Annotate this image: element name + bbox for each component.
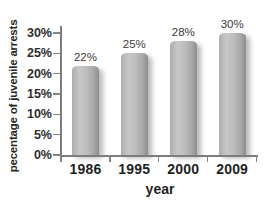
y-tick-mark xyxy=(53,73,60,74)
bar xyxy=(219,33,246,155)
y-tick-mark xyxy=(53,32,60,33)
y-tick-label: 25% xyxy=(20,45,52,61)
bar xyxy=(72,66,99,155)
x-tick-mark xyxy=(207,157,208,162)
x-tick-mark xyxy=(109,157,110,162)
x-tick-mark xyxy=(158,157,159,162)
y-tick-label: 15% xyxy=(20,86,52,102)
y-axis-line xyxy=(60,26,62,157)
x-axis-title: year xyxy=(134,181,186,198)
x-tick-mark xyxy=(60,157,61,162)
y-tick-label: 30% xyxy=(20,25,52,41)
bar-value-label: 28% xyxy=(161,25,205,39)
y-tick-label: 0% xyxy=(20,147,52,163)
y-tick-mark xyxy=(53,93,60,94)
y-tick-mark xyxy=(53,114,60,115)
bar-value-label: 22% xyxy=(63,50,107,64)
x-tick-mark xyxy=(256,157,257,162)
bar-value-label: 25% xyxy=(112,37,156,51)
bar xyxy=(170,41,197,155)
x-category-label: 1995 xyxy=(108,161,160,178)
y-tick-label: 20% xyxy=(20,66,52,82)
y-tick-mark xyxy=(53,53,60,54)
x-category-label: 1986 xyxy=(59,161,111,178)
y-axis-title: pecentage of juvenile arrests xyxy=(7,20,19,173)
bar xyxy=(121,53,148,155)
bar-chart-figure: pecentage of juvenile arrests year 0%5%1… xyxy=(0,0,271,209)
y-tick-mark xyxy=(53,134,60,135)
y-tick-label: 10% xyxy=(20,106,52,122)
x-category-label: 2000 xyxy=(157,161,209,178)
x-category-label: 2009 xyxy=(206,161,258,178)
y-tick-label: 5% xyxy=(20,127,52,143)
bar-value-label: 30% xyxy=(210,17,254,31)
y-tick-mark xyxy=(53,154,60,155)
